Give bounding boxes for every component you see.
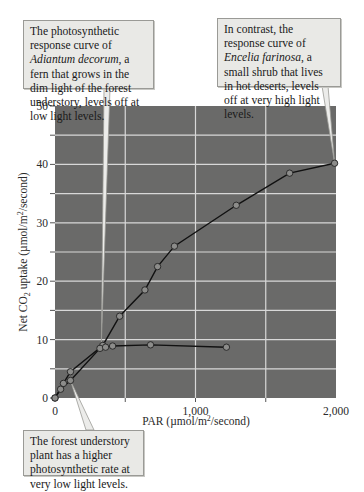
- x-tick-label: 2,000: [323, 405, 349, 418]
- x-tick-label: 0: [52, 405, 58, 417]
- x-axis-label: PAR (µmol/m2/second): [142, 414, 250, 428]
- y-tick-label: 30: [37, 217, 49, 229]
- data-point-marker: [57, 386, 63, 392]
- data-point-marker: [52, 395, 58, 401]
- data-point-marker: [147, 342, 153, 348]
- callout-text: In contrast, the response curve of: [224, 23, 306, 50]
- data-point-marker: [171, 243, 177, 249]
- y-axis-label: Net CO2 uptake (µmol/m2/second): [16, 172, 32, 331]
- y-tick-label: 20: [37, 275, 49, 287]
- data-point-marker: [67, 369, 73, 375]
- data-point-marker: [109, 343, 115, 349]
- callout-understory-annotation: The forest understory plant has a higher…: [23, 430, 144, 476]
- y-tick-label: 10: [37, 334, 49, 346]
- data-point-marker: [331, 160, 337, 166]
- data-point-marker: [223, 344, 229, 350]
- callout-text: The photosynthetic response curve of: [30, 25, 119, 52]
- callout-shrub-annotation: In contrast, the response curve of Encel…: [217, 18, 341, 87]
- y-tick-label: 0: [42, 392, 48, 404]
- data-point-marker: [286, 170, 292, 176]
- data-point-marker: [233, 202, 239, 208]
- data-point-marker: [142, 287, 148, 293]
- callout-fern-annotation: The photosynthetic response curve of Adi…: [23, 20, 154, 89]
- species-name: Adiantum decorum: [30, 53, 119, 66]
- y-tick-label: 40: [37, 158, 49, 170]
- data-point-marker: [67, 377, 73, 383]
- data-point-marker: [116, 313, 122, 319]
- callout-text: The forest understory plant has a higher…: [30, 435, 130, 491]
- species-name: Encelia farinosa: [224, 51, 301, 64]
- data-point-marker: [102, 344, 108, 350]
- data-point-marker: [154, 263, 160, 269]
